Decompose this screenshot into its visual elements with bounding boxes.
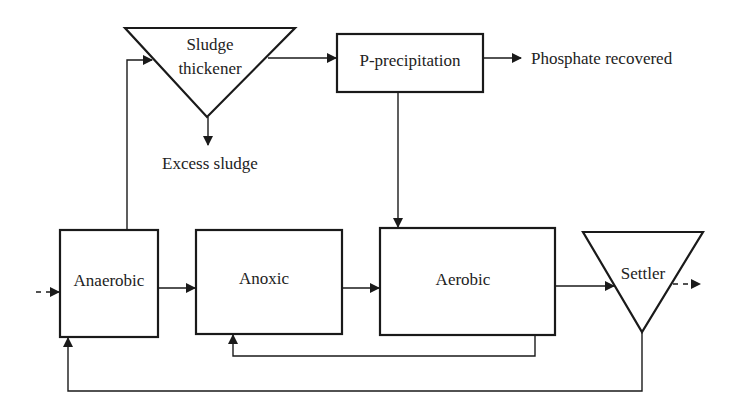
sludge-thickener-label-line2: thickener [178,60,241,77]
sludge-thickener-label-line1: Sludge [186,36,233,53]
settler-label: Settler [621,265,665,282]
anaerobic-to-thickener-arrow [127,60,152,230]
anoxic-label: Anoxic [239,270,289,287]
excess-sludge-label: Excess sludge [162,155,258,172]
p-precipitation-label: P-precipitation [359,52,460,69]
phosphate-recovered-label: Phosphate recovered [531,50,672,67]
sludge-return-arrow [68,332,642,391]
internal-recycle-arrow [233,335,535,356]
process-flow-diagram: Sludge thickener P-precipitation Phospha… [0,0,741,406]
aerobic-label: Aerobic [436,271,491,288]
anaerobic-label: Anaerobic [74,272,145,289]
